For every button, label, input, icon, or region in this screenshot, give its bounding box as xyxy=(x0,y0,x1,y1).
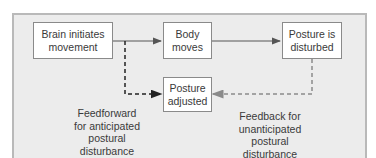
node-posture-adjusted: Posture adjusted xyxy=(163,77,212,112)
feedforward-dashed-arrow xyxy=(125,41,161,94)
node-label: Brain initiates movement xyxy=(41,28,104,54)
node-posture-disturbed: Posture is disturbed xyxy=(282,22,342,59)
node-label: Body moves xyxy=(172,28,203,54)
node-body-moves: Body moves xyxy=(163,22,212,59)
feedforward-annotation: Feedforward for anticipated postural dis… xyxy=(62,107,152,157)
node-label: Posture is disturbed xyxy=(289,28,336,54)
feedback-annotation: Feedback for unanticipated postural dist… xyxy=(225,110,315,158)
node-brain-initiates-movement: Brain initiates movement xyxy=(33,22,113,59)
node-label: Posture adjusted xyxy=(168,82,208,108)
feedback-dashed-arrow xyxy=(213,59,312,94)
